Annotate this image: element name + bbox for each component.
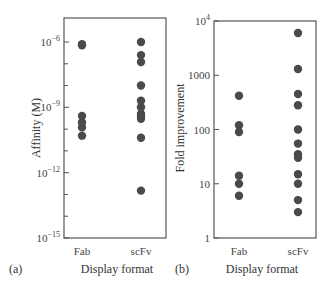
y-axis-label-b: Fold improvement [173,83,187,173]
data-point-scfv [294,29,302,37]
data-point-scfv [294,101,302,109]
x-axis-label-b: Display format [226,262,299,276]
y-tick-label: 10−15 [36,230,60,244]
points-a [78,38,145,195]
y-tick-label: 104 [195,13,210,27]
y-tick-label: 100 [194,124,211,136]
data-point-fab [78,41,86,49]
data-point-scfv [137,58,145,66]
panel-label-b: (b) [175,262,189,276]
panel-label-a: (a) [9,262,22,276]
x-tick-label-scfv-b: scFv [288,245,309,257]
data-point-fab [78,123,86,131]
data-point-scfv [294,208,302,216]
data-point-scfv [294,65,302,73]
data-point-fab [235,91,243,99]
x-axis-label-a: Display format [81,262,154,276]
y-tick-label: 10−12 [36,165,60,179]
panel-a: 10−610−910−1210−15 Affinity (M) Fab scFv… [9,18,166,276]
y-axis-label-a: Affinity (M) [29,98,43,158]
data-point-scfv [137,186,145,194]
data-point-scfv [294,196,302,204]
y-tick-label: 10 [199,178,211,190]
y-tick-label: 1000 [188,69,211,81]
x-tick-label-scfv-a: scFv [131,245,152,257]
data-point-scfv [137,38,145,46]
data-point-scfv [294,90,302,98]
data-point-fab [235,192,243,200]
y-tick-label: 1 [205,232,211,244]
data-point-scfv [294,170,302,178]
data-point-scfv [137,81,145,89]
data-point-scfv [294,125,302,133]
y-tick-label: 10−9 [40,99,60,113]
data-point-scfv [294,139,302,147]
x-tick-label-fab-a: Fab [74,245,91,257]
data-point-scfv [294,180,302,188]
data-point-scfv [137,134,145,142]
data-point-fab [235,128,243,136]
y-tick-label: 10−6 [40,34,60,48]
data-point-scfv [137,115,145,123]
data-point-scfv [294,154,302,162]
data-point-fab [78,131,86,139]
figure: 10−610−910−1210−15 Affinity (M) Fab scFv… [0,0,336,284]
data-point-fab [235,180,243,188]
x-tick-label-fab-b: Fab [231,245,248,257]
panel-b: 1041000100101 Fold improvement Fab scFv … [173,13,316,276]
points-b [235,29,302,216]
data-point-fab [235,172,243,180]
